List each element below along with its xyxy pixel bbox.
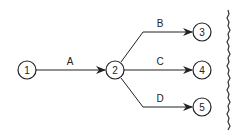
node-3-label: 3 [199, 27, 205, 38]
node-4: 4 [193, 61, 211, 79]
edge-b-label: B [157, 18, 164, 29]
node-3: 3 [193, 23, 211, 41]
edge-c: C [124, 56, 192, 70]
diagram-svg: A B C D 1 2 3 4 [0, 0, 241, 139]
network-diagram: A B C D 1 2 3 4 [0, 0, 241, 139]
node-5: 5 [193, 98, 211, 116]
torn-edge-boundary [227, 10, 230, 130]
node-1: 1 [18, 61, 36, 79]
node-2-label: 2 [112, 65, 118, 76]
node-5-label: 5 [199, 102, 205, 113]
edge-c-label: C [156, 56, 163, 67]
node-2: 2 [106, 61, 124, 79]
node-1-label: 1 [24, 65, 30, 76]
edge-d: D [121, 78, 192, 107]
edge-a: A [36, 56, 105, 70]
node-4-label: 4 [199, 65, 205, 76]
edge-d-label: D [156, 93, 163, 104]
edge-a-label: A [67, 56, 74, 67]
